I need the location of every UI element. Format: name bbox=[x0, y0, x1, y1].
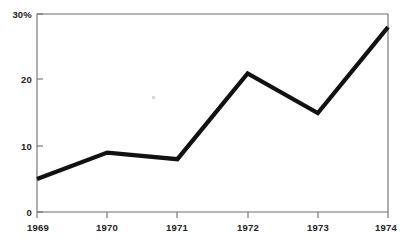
x-axis-label-1974: 1974 bbox=[375, 222, 397, 233]
data-series-line bbox=[37, 27, 388, 179]
x-axis-label-1971: 1971 bbox=[166, 222, 188, 233]
y-axis-label-0: 0 bbox=[27, 207, 32, 218]
x-tick-marks bbox=[37, 212, 388, 218]
x-axis-label-1973: 1973 bbox=[307, 222, 329, 233]
x-axis-label-1970: 1970 bbox=[96, 222, 118, 233]
y-axis-label-20: 20 bbox=[21, 74, 32, 85]
y-axis-label-30: 30% bbox=[12, 9, 32, 20]
y-axis-label-10: 10 bbox=[21, 141, 32, 152]
scan-speck bbox=[152, 96, 155, 99]
line-chart: 30% 20 10 0 1969 1970 1971 1972 1973 197… bbox=[0, 0, 409, 246]
x-axis-label-1969: 1969 bbox=[27, 222, 49, 233]
x-axis-label-1972: 1972 bbox=[237, 222, 259, 233]
chart-canvas: 30% 20 10 0 1969 1970 1971 1972 1973 197… bbox=[0, 0, 409, 246]
y-tick-marks bbox=[37, 14, 43, 212]
